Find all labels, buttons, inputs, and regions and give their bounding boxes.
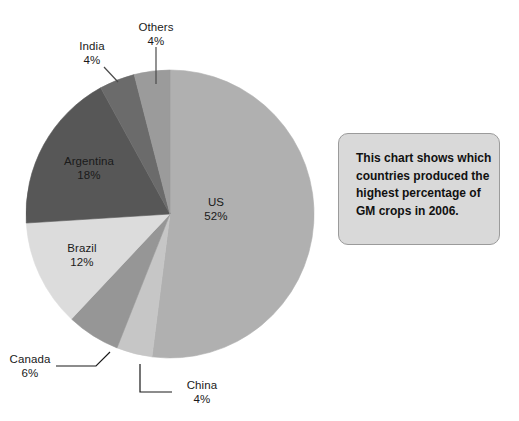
pie-label-argentina: Argentina 18% [44, 155, 134, 182]
annotation-callout-text: This chart shows which countries produce… [356, 150, 492, 220]
pie-label-china: China 4% [176, 379, 228, 406]
pie-label-brazil-name: Brazil [47, 242, 117, 256]
pie-label-us-name: US [186, 196, 246, 210]
leader-line-india [104, 67, 118, 82]
pie-label-brazil: Brazil 12% [47, 242, 117, 269]
pie-label-others: Others 4% [124, 21, 188, 48]
pie-chart-figure: US 52% Argentina 18% Brazil 12% Others 4… [0, 0, 519, 421]
leader-line-canada [56, 352, 110, 366]
pie-label-us-value: 52% [186, 210, 246, 224]
pie-label-canada-name: Canada [0, 353, 60, 367]
pie-label-us: US 52% [186, 196, 246, 223]
pie-label-china-value: 4% [176, 393, 228, 407]
pie-label-india-name: India [62, 40, 122, 54]
pie-label-canada-value: 6% [0, 367, 60, 381]
pie-label-india-value: 4% [62, 54, 122, 68]
pie-label-argentina-name: Argentina [44, 155, 134, 169]
pie-label-others-name: Others [124, 21, 188, 35]
pie-label-india: India 4% [62, 40, 122, 67]
pie-label-others-value: 4% [124, 35, 188, 49]
pie-label-china-name: China [176, 379, 228, 393]
pie-label-canada: Canada 6% [0, 353, 60, 380]
leader-line-china [140, 364, 172, 392]
pie-label-brazil-value: 12% [47, 256, 117, 270]
pie-label-argentina-value: 18% [44, 169, 134, 183]
